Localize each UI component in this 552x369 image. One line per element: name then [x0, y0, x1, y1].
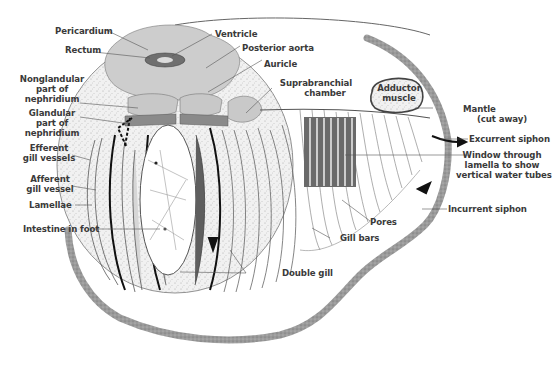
- label-auricle: Auricle: [264, 59, 297, 69]
- label-nonglandular-line3: nephridium: [18, 94, 86, 104]
- label-glandular-line1: Glandular: [22, 108, 82, 118]
- label-efferent-line1: Efferent: [20, 143, 78, 153]
- label-nonglandular-line2: part of: [18, 84, 86, 94]
- label-window-line2: lamella to show: [456, 160, 548, 170]
- label-excurrent-siphon: Excurrent siphon: [469, 134, 550, 144]
- label-gill-bars: Gill bars: [340, 233, 379, 243]
- label-adductor-line1: Adductor: [374, 83, 424, 93]
- label-glandular-nephridium: Glandular part of nephridium: [22, 108, 82, 138]
- label-adductor-line2: muscle: [374, 93, 424, 103]
- label-mantle: Mantle (cut away): [463, 104, 527, 124]
- label-rectum: Rectum: [65, 45, 101, 55]
- label-efferent-gill-vessels: Efferent gill vessels: [20, 143, 78, 163]
- label-mantle-line2: (cut away): [463, 114, 527, 124]
- label-intestine-in-foot: Intestine in foot: [23, 224, 99, 234]
- label-incurrent-siphon: Incurrent siphon: [448, 204, 527, 214]
- foot: [140, 125, 196, 275]
- label-glandular-line2: part of: [22, 118, 82, 128]
- label-suprabranchial-line1: Suprabranchial: [276, 78, 356, 88]
- label-afferent-line2: gill vessel: [22, 184, 78, 194]
- label-afferent-line1: Afferent: [22, 174, 78, 184]
- label-window-line1: Window through: [456, 150, 548, 160]
- window-water-tubes: [304, 117, 356, 187]
- label-adductor-muscle: Adductor muscle: [374, 83, 424, 103]
- label-double-gill: Double gill: [282, 268, 333, 278]
- label-window-line3: vertical water tubes: [456, 170, 548, 180]
- label-pores: Pores: [370, 217, 397, 227]
- label-pericardium: Pericardium: [55, 26, 113, 36]
- label-nonglandular-nephridium: Nonglandular part of nephridium: [18, 74, 86, 104]
- label-window-through-lamella: Window through lamella to show vertical …: [456, 150, 548, 180]
- label-glandular-line3: nephridium: [22, 128, 82, 138]
- label-suprabranchial-line2: chamber: [276, 88, 356, 98]
- label-nonglandular-line1: Nonglandular: [18, 74, 86, 84]
- label-afferent-gill-vessel: Afferent gill vessel: [22, 174, 78, 194]
- label-posterior-aorta: Posterior aorta: [242, 43, 314, 53]
- label-efferent-line2: gill vessels: [20, 153, 78, 163]
- label-ventricle: Ventricle: [215, 29, 257, 39]
- label-lamellae: Lamellae: [29, 200, 72, 210]
- label-suprabranchial-chamber: Suprabranchial chamber: [276, 78, 356, 98]
- label-mantle-line1: Mantle: [463, 104, 527, 114]
